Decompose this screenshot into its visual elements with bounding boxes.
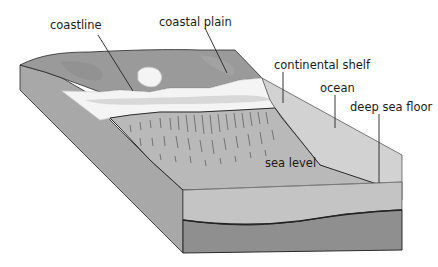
label-coastline: coastline — [50, 18, 102, 32]
label-deep-sea-floor: deep sea floor — [350, 100, 432, 114]
label-sea-level: sea level — [265, 156, 316, 170]
label-coastal-plain: coastal plain — [159, 15, 232, 29]
label-ocean: ocean — [320, 81, 355, 95]
label-continental-shelf: continental shelf — [274, 58, 371, 72]
coastal-diagram: coastline coastal plain continental shel… — [0, 0, 438, 267]
lagoon-patch — [138, 67, 162, 87]
